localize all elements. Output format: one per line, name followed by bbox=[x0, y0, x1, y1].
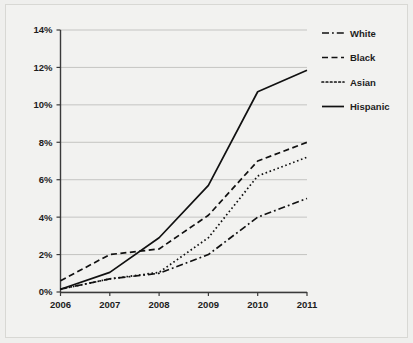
x-tick-label: 2008 bbox=[149, 299, 170, 310]
x-tick-label: 2007 bbox=[99, 299, 120, 310]
y-tick-label: 12% bbox=[33, 62, 53, 73]
y-tick-label: 14% bbox=[33, 24, 53, 35]
line-chart: 0%2%4%6%8%10%12%14% 20062007200820092010… bbox=[0, 0, 413, 343]
axis-lines bbox=[61, 30, 308, 293]
series-line-asian bbox=[61, 157, 308, 289]
y-tick-label: 0% bbox=[39, 286, 53, 297]
x-tick-label: 2009 bbox=[198, 299, 219, 310]
x-axis-tick-labels: 200620072008200920102011 bbox=[50, 299, 318, 310]
legend-label-black: Black bbox=[350, 52, 376, 63]
x-tick-label: 2006 bbox=[50, 299, 71, 310]
chart-legend: WhiteBlackAsianHispanic bbox=[322, 28, 390, 113]
chart-figure: 0%2%4%6%8%10%12%14% 20062007200820092010… bbox=[0, 0, 413, 343]
gridlines bbox=[61, 30, 308, 292]
x-tick-label: 2010 bbox=[247, 299, 268, 310]
y-tick-label: 2% bbox=[39, 249, 53, 260]
y-tick-label: 8% bbox=[39, 137, 53, 148]
x-tick-label: 2011 bbox=[297, 299, 318, 310]
y-tick-label: 6% bbox=[39, 174, 53, 185]
y-axis-tick-labels: 0%2%4%6%8%10%12%14% bbox=[33, 24, 53, 297]
y-tick-label: 4% bbox=[39, 212, 53, 223]
legend-label-asian: Asian bbox=[350, 77, 376, 88]
legend-label-white: White bbox=[350, 28, 376, 39]
y-tick-label: 10% bbox=[33, 99, 53, 110]
legend-label-hispanic: Hispanic bbox=[350, 101, 390, 112]
